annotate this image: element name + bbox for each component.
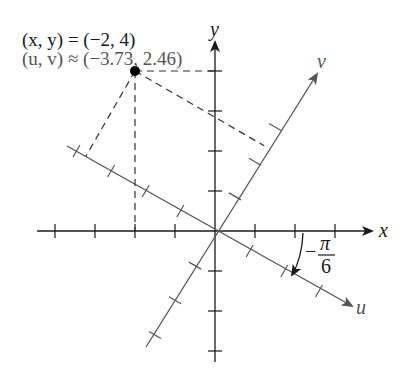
tick-mark: [269, 124, 281, 131]
tick-mark: [249, 158, 261, 165]
v-axis: [146, 74, 317, 347]
rotation-angle-arc: [292, 233, 303, 275]
angle-denominator: 6: [321, 255, 331, 277]
y-axis: [208, 42, 222, 362]
x-axis-label: x: [378, 219, 388, 241]
tick-mark: [229, 193, 241, 200]
angle-minus-sign: −: [305, 240, 316, 262]
uv-coordinate-label: (u, v) ≈ (−3.73, 2.46): [22, 48, 182, 70]
u-axis: [67, 145, 352, 306]
y-axis-label: y: [208, 18, 219, 41]
tick-mark: [73, 145, 80, 157]
u-axis-label: u: [356, 296, 366, 318]
angle-label: − π 6: [305, 232, 335, 277]
dashed-line-to-u-axis: [86, 71, 135, 156]
dashed-line-to-v-axis: [135, 71, 264, 146]
rotated-axes-diagram: (x, y) = (−2, 4) (u, v) ≈ (−3.73, 2.46) …: [0, 0, 410, 377]
tick-mark: [169, 297, 181, 304]
v-axis-label: v: [317, 50, 326, 72]
u-axis-ticks: [73, 145, 322, 297]
angle-numerator: π: [320, 232, 331, 254]
tick-mark: [108, 165, 115, 177]
